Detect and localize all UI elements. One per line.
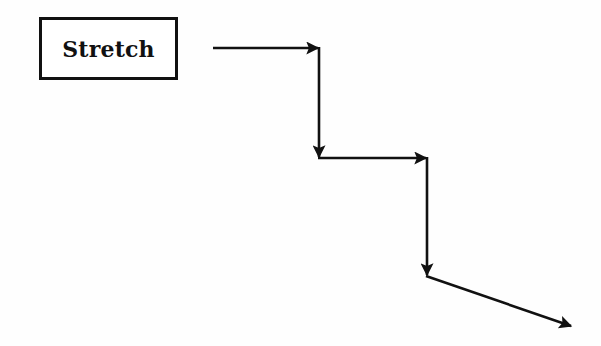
arrow-segment-5	[426, 276, 571, 326]
arrow-path	[0, 0, 601, 346]
